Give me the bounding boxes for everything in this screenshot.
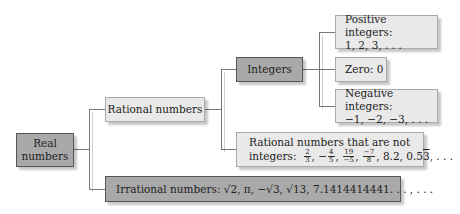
- connector-integers-stem: [303, 69, 320, 70]
- connector-to-positive: [319, 32, 335, 33]
- node-integers-label: Integers: [247, 63, 292, 76]
- fraction-2: 45: [328, 149, 334, 164]
- connector-to-negative: [319, 106, 335, 107]
- node-irrational-examples: √2, π, −√3, √13, 7.1414414441. . . , . .…: [224, 183, 433, 196]
- node-rational-non-integers: Rational numbers that are not integers: …: [236, 132, 424, 167]
- fraction-4: −78: [363, 149, 375, 164]
- node-rational-label: Rational numbers: [108, 103, 203, 116]
- connector-to-zero: [319, 69, 335, 70]
- node-positive-integers: Positive integers: 1, 2, 3, . . .: [335, 15, 438, 49]
- node-negative-integers: Negative integers: −1, −2, −3, . . .: [335, 89, 438, 123]
- connector-real-stem: [74, 149, 90, 150]
- connector-to-non-integer: [221, 149, 236, 150]
- connector-real-vertical: [89, 109, 90, 189]
- node-positive-examples: 1, 2, 3, . . .: [345, 39, 437, 52]
- connector-rational-stem: [205, 109, 222, 110]
- node-integers: Integers: [236, 57, 303, 82]
- connector-to-integers: [221, 69, 236, 70]
- node-zero-label: Zero: 0: [345, 63, 386, 76]
- node-positive-label: Positive integers:: [345, 13, 437, 39]
- fraction-1: 23: [304, 149, 310, 164]
- node-irrational-label: Irrational numbers:: [116, 183, 220, 196]
- node-real-line1: Real: [33, 137, 57, 150]
- node-non-integer-label: Rational numbers that are not: [249, 136, 423, 149]
- node-zero: Zero: 0: [335, 57, 387, 82]
- connector-to-irrational: [89, 189, 105, 190]
- connector-to-rational: [89, 109, 105, 110]
- node-real-numbers: Real numbers: [16, 133, 74, 167]
- connector-rational-vertical-shadow: [224, 72, 225, 152]
- node-rational-numbers: Rational numbers: [105, 97, 205, 122]
- connector-rational-vertical: [221, 69, 222, 150]
- connector-integers-vertical-shadow: [322, 35, 323, 109]
- node-real-line2: numbers: [22, 150, 69, 163]
- node-irrational-numbers: Irrational numbers: √2, π, −√3, √13, 7.1…: [105, 176, 401, 202]
- connector-real-vertical-shadow: [92, 112, 93, 192]
- node-negative-label: Negative integers:: [345, 87, 437, 113]
- node-non-integer-examples: integers: 23, −45, 19−5, −78, 8.2, 0.53,…: [249, 149, 423, 164]
- node-negative-examples: −1, −2, −3, . . .: [345, 113, 437, 126]
- fraction-3: 19−5: [343, 149, 354, 164]
